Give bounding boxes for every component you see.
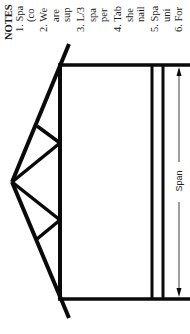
truss-drawing <box>0 0 190 334</box>
span-label: Span <box>174 168 184 194</box>
truss-diagram-page: NOTES 1. Spa (co 2. We are sup 3. L/3 sp… <box>0 0 190 334</box>
web-upper-short <box>37 126 60 143</box>
web-lower-short <box>37 220 60 239</box>
arrow-down-icon <box>177 288 182 297</box>
arrow-up-icon <box>177 67 182 76</box>
